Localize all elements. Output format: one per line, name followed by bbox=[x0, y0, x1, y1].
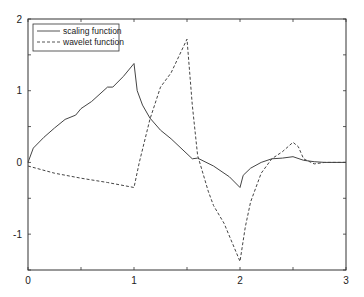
legend: scaling function wavelet function bbox=[33, 24, 124, 51]
y-tick-label: 2 bbox=[16, 14, 22, 25]
x-tick-label: 1 bbox=[131, 275, 137, 286]
y-tick-label: 1 bbox=[16, 85, 22, 96]
plot-area bbox=[28, 19, 346, 270]
x-tick-label: 0 bbox=[25, 275, 31, 286]
y-tick-label: 0 bbox=[16, 157, 22, 168]
legend-label-scaling: scaling function bbox=[63, 26, 122, 36]
y-tick-label: -1 bbox=[13, 229, 22, 240]
chart: 0123210-1 scaling function wavelet funct… bbox=[0, 0, 364, 297]
x-tick-label: 3 bbox=[343, 275, 349, 286]
legend-label-wavelet: wavelet function bbox=[62, 37, 124, 47]
x-tick-label: 2 bbox=[237, 275, 243, 286]
